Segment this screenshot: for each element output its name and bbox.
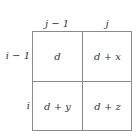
row-header-i-minus-1: i − 1 <box>0 50 30 62</box>
cell-i-j: d + z <box>83 82 132 131</box>
cell-i-minus-1-j: d + x <box>83 32 132 81</box>
column-header-j-minus-1: j − 1 <box>32 18 82 30</box>
row-header-i: i <box>0 100 30 112</box>
cell-i-minus-1-j-minus-1: d <box>33 32 82 81</box>
column-header-j: j <box>82 18 132 30</box>
cell-i-j-minus-1: d + y <box>33 82 82 131</box>
grid: d d + x d + y d + z <box>32 31 132 131</box>
